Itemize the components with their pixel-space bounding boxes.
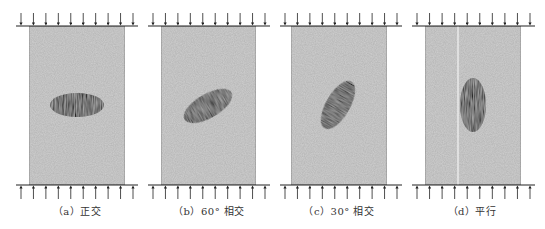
panel-a — [16, 13, 138, 199]
caption-a: （a）正交 — [53, 203, 101, 218]
panel-c — [280, 13, 402, 199]
inclusion-ellipse — [460, 78, 486, 132]
panels-group — [16, 13, 535, 199]
inclusion-ellipse — [50, 93, 104, 117]
caption-c: （c）30° 相交 — [303, 203, 374, 218]
panel-d — [412, 13, 535, 199]
caption-d: （d）平行 — [448, 203, 497, 218]
panel-b — [148, 13, 270, 199]
figure-canvas — [0, 0, 545, 229]
caption-b: （b）60° 相交 — [173, 203, 245, 218]
